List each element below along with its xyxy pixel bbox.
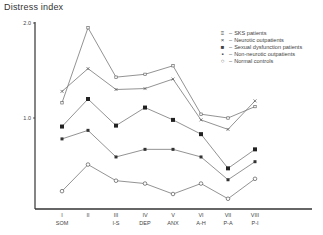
legend-item-sexual-dysfunction: ■ –Sexual dysfunction patients (218, 44, 302, 51)
data-point (226, 166, 230, 170)
x-tick-sublabel: DEP (130, 220, 160, 226)
legend-item-normal-controls: ○ –Normal controls (218, 58, 302, 65)
data-point (115, 155, 118, 158)
data-point (254, 160, 257, 163)
open-circle-icon: ○ (218, 58, 227, 65)
y-tick-label: 1.0 (23, 115, 31, 121)
x-tick-label: II (73, 212, 103, 218)
x-tick-sublabel: A-H (186, 220, 216, 226)
data-point (254, 105, 256, 107)
data-point (226, 197, 230, 201)
legend-item-sks: ≡ –SKS patients (218, 30, 302, 37)
x-tick-label: VIII (240, 212, 270, 218)
data-point (114, 179, 118, 183)
data-point (200, 113, 202, 115)
data-point (171, 118, 175, 122)
y-tick-label: 2.0 (23, 20, 31, 26)
data-point (87, 67, 90, 70)
data-point (254, 99, 257, 102)
data-point (172, 65, 174, 67)
cross-icon: × (218, 37, 227, 44)
double-square-icon: ≡ (218, 30, 227, 37)
data-point (172, 148, 175, 151)
data-point (199, 132, 203, 136)
data-point (143, 106, 147, 110)
data-point (87, 129, 90, 132)
x-tick-sublabel: ANX (158, 220, 188, 226)
x-tick-label: IV (130, 212, 160, 218)
data-point (61, 90, 64, 93)
legend: ≡ –SKS patients × –Neurotic outpatients … (218, 30, 302, 65)
data-point (87, 27, 89, 29)
x-tick-sublabel: SOM (47, 220, 77, 226)
data-point (143, 182, 147, 186)
x-tick-label: III (101, 212, 131, 218)
data-point (144, 73, 146, 75)
data-point (171, 192, 175, 196)
series-line (62, 69, 255, 130)
data-point (114, 124, 118, 128)
x-tick-sublabel: I-S (101, 220, 131, 226)
data-point (115, 76, 117, 78)
data-point (227, 117, 229, 119)
legend-item-non-neurotic: ▪ –Non-neurotic outpatients (218, 51, 302, 58)
data-point (60, 189, 64, 193)
x-tick-label: VII (213, 212, 243, 218)
data-point (86, 97, 90, 101)
data-point (144, 148, 147, 151)
filled-square-icon: ■ (218, 44, 227, 51)
data-point (200, 155, 203, 158)
x-tick-sublabel: P-I (240, 220, 270, 226)
data-point (199, 182, 203, 186)
data-point (61, 137, 64, 140)
legend-item-neurotic: × –Neurotic outpatients (218, 37, 302, 44)
data-point (60, 125, 64, 129)
x-tick-label: VI (186, 212, 216, 218)
small-square-icon: ▪ (218, 51, 227, 58)
data-point (227, 178, 230, 181)
data-point (253, 177, 257, 181)
data-point (86, 163, 90, 167)
data-point (61, 102, 63, 104)
x-tick-label: V (158, 212, 188, 218)
data-point (253, 147, 257, 151)
series-line (62, 130, 255, 179)
x-tick-sublabel: P-A (213, 220, 243, 226)
